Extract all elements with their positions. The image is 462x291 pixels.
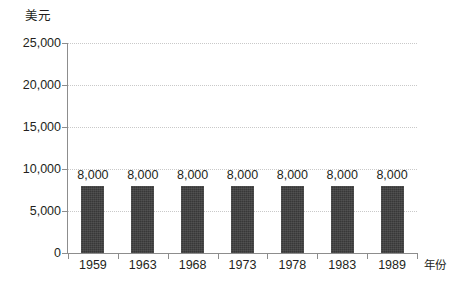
bar <box>181 186 204 253</box>
bar <box>131 186 154 253</box>
y-tick-label: 10,000 <box>23 162 69 176</box>
gridline-25000 <box>68 43 417 44</box>
bar-value-label: 8,000 <box>218 168 268 182</box>
bar-value-label: 8,000 <box>118 168 168 182</box>
y-tick-label: 15,000 <box>23 120 69 134</box>
bar <box>331 186 354 253</box>
x-tick-label: 1989 <box>367 258 417 273</box>
bar <box>231 186 254 253</box>
bar-value-label: 8,000 <box>168 168 218 182</box>
y-axis-title: 美元 <box>25 9 51 24</box>
x-axis-title: 年份 <box>424 258 446 272</box>
x-tick-label: 1968 <box>168 258 218 273</box>
x-tick-label: 1983 <box>317 258 367 273</box>
gridline-20000 <box>68 85 417 86</box>
x-tick-label: 1963 <box>118 258 168 273</box>
bar <box>281 186 304 253</box>
x-tick-label: 1959 <box>68 258 118 273</box>
bar <box>381 186 404 253</box>
x-tick-label: 1978 <box>267 258 317 273</box>
bar-value-label: 8,000 <box>267 168 317 182</box>
y-tick-label: 25,000 <box>23 36 69 50</box>
x-tick-label: 1973 <box>218 258 268 273</box>
x-axis-line <box>67 253 417 254</box>
x-tick-mark <box>417 253 418 259</box>
bar-value-label: 8,000 <box>367 168 417 182</box>
y-tick-label: 20,000 <box>23 78 69 92</box>
bar <box>81 186 104 253</box>
bar-chart: 美元 05,00010,00015,00020,00025,000 195919… <box>0 0 462 291</box>
bar-value-label: 8,000 <box>317 168 367 182</box>
y-tick-label: 0 <box>54 246 69 260</box>
y-tick-label: 5,000 <box>30 204 69 218</box>
bar-value-label: 8,000 <box>68 168 118 182</box>
gridline-15000 <box>68 127 417 128</box>
